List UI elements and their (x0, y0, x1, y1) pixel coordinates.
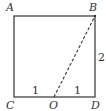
label-C: C (6, 99, 15, 111)
length-OD: 1 (74, 84, 81, 97)
square-diagram: A B C O D 2 1 1 (0, 0, 106, 111)
label-A: A (5, 1, 14, 14)
label-D: D (90, 99, 100, 111)
square-ABDC (14, 16, 95, 97)
length-CO: 1 (32, 84, 39, 97)
point-B (94, 15, 96, 17)
label-B: B (88, 1, 97, 14)
length-BD: 2 (98, 51, 105, 64)
label-O: O (49, 99, 58, 111)
